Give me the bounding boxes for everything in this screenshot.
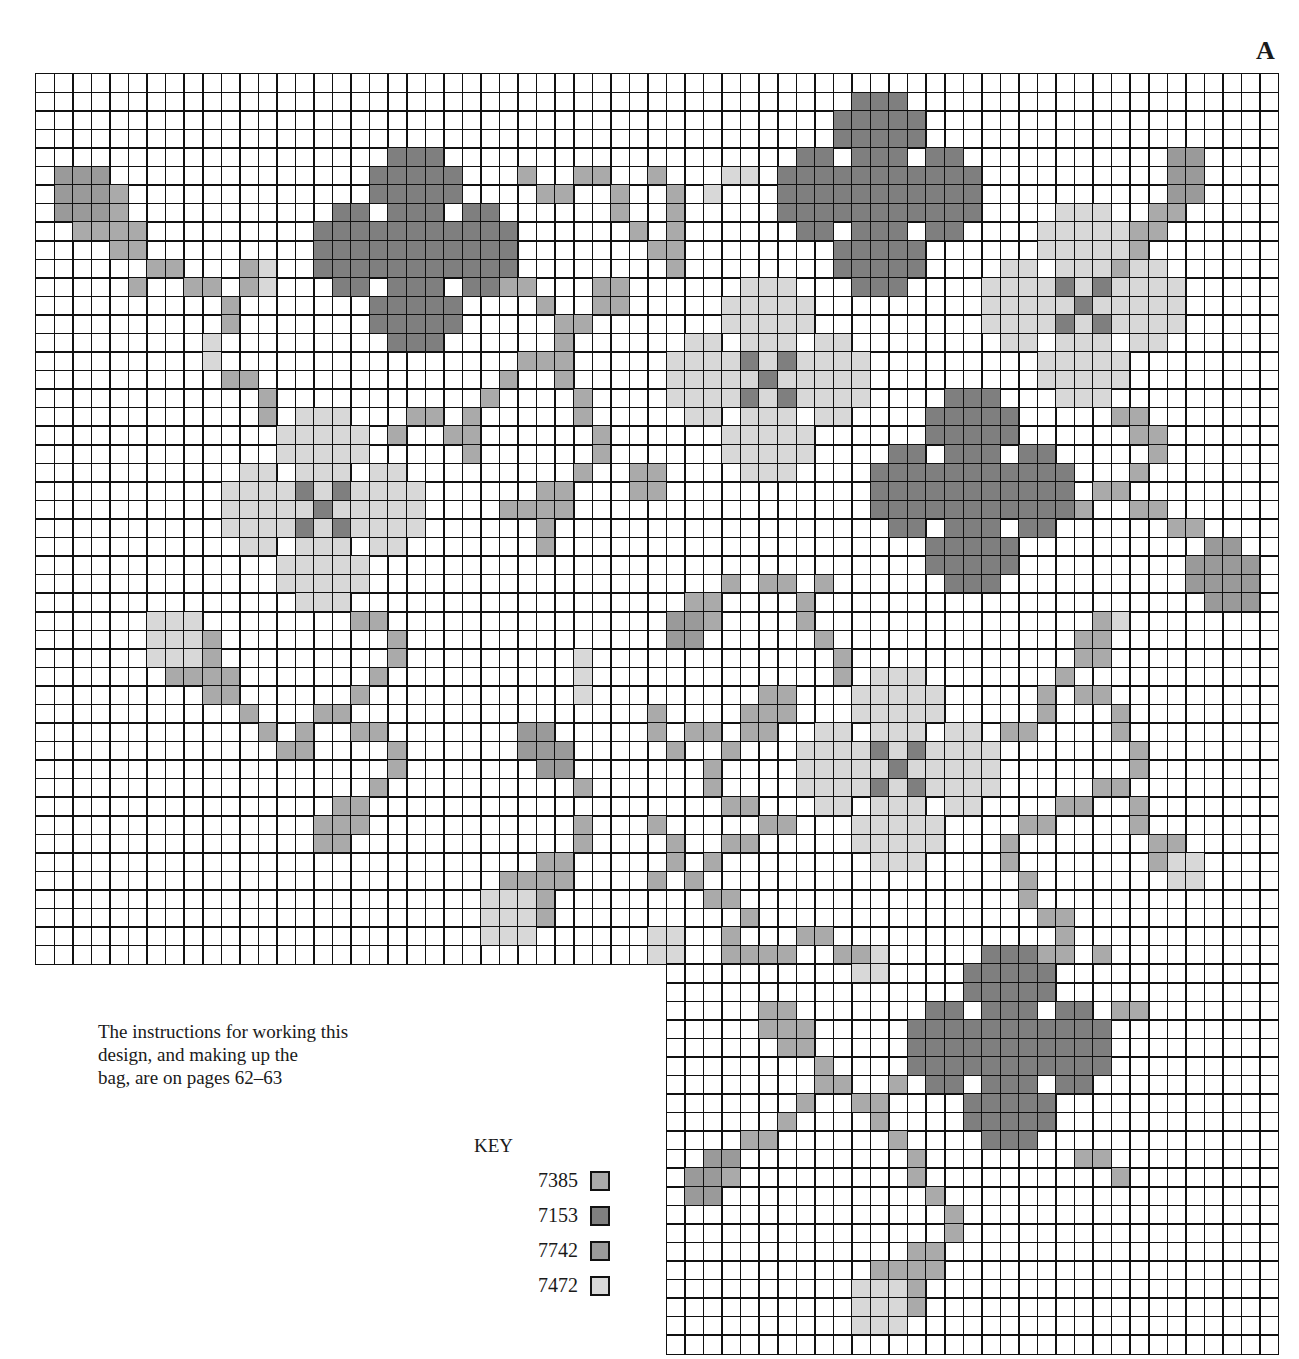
grid-cell (313, 759, 333, 779)
grid-cell (387, 351, 407, 371)
grid-cell (313, 370, 333, 390)
grid-cell (907, 92, 927, 112)
grid-cell (183, 481, 203, 501)
grid-cell (814, 92, 834, 112)
grid-cell (165, 815, 185, 835)
grid-cell (1185, 463, 1205, 483)
grid-cell (1037, 852, 1057, 872)
grid-cell (647, 147, 667, 167)
grid-cell (1241, 574, 1261, 594)
grid-cell (907, 518, 927, 538)
grid-cell (684, 147, 704, 167)
grid-cell (721, 834, 741, 854)
grid-cell (295, 555, 315, 575)
grid-cell (721, 1223, 741, 1243)
grid-cell (239, 592, 259, 612)
grid-cell (1055, 537, 1075, 557)
grid-cell (1000, 203, 1020, 223)
grid-cell (1055, 1112, 1075, 1132)
grid-cell (1018, 481, 1038, 501)
grid-cell (165, 388, 185, 408)
grid-cell (963, 1056, 983, 1076)
grid-cell (1204, 259, 1224, 279)
grid-cell (480, 741, 500, 761)
grid-cell (554, 333, 574, 353)
grid-cell (1241, 1149, 1261, 1169)
grid-cell (851, 259, 871, 279)
grid-cell (944, 129, 964, 149)
grid-cell (202, 611, 222, 631)
grid-cell (72, 648, 92, 668)
grid-cell (536, 630, 556, 650)
grid-cell (443, 778, 463, 798)
grid-cell (647, 871, 667, 891)
grid-cell (462, 333, 482, 353)
grid-cell (183, 889, 203, 909)
grid-cell (165, 277, 185, 297)
grid-cell (1167, 1075, 1187, 1095)
grid-cell (814, 982, 834, 1002)
grid-cell (1018, 1260, 1038, 1280)
grid-cell (221, 796, 241, 816)
grid-cell (1074, 704, 1094, 724)
grid-cell (1037, 425, 1057, 445)
grid-cell (295, 425, 315, 445)
grid-cell (777, 129, 797, 149)
grid-cell (295, 314, 315, 334)
grid-cell (1241, 815, 1261, 835)
grid-cell (870, 333, 890, 353)
grid-cell (499, 388, 519, 408)
grid-cell (888, 221, 908, 241)
grid-cell (72, 92, 92, 112)
grid-cell (1259, 1242, 1279, 1262)
grid-cell (1074, 407, 1094, 427)
grid-cell (944, 1038, 964, 1058)
grid-cell (981, 444, 1001, 464)
grid-cell (258, 555, 278, 575)
grid-cell (944, 370, 964, 390)
grid-cell (239, 333, 259, 353)
grid-cell (1018, 240, 1038, 260)
grid-cell (610, 852, 630, 872)
grid-cell (814, 277, 834, 297)
grid-cell (128, 648, 148, 668)
grid-cell (165, 555, 185, 575)
grid-cell (870, 982, 890, 1002)
grid-cell (907, 704, 927, 724)
grid-cell (499, 444, 519, 464)
grid-cell (796, 73, 816, 93)
grid-cell (1204, 1316, 1224, 1336)
grid-cell (35, 203, 55, 223)
grid-cell (425, 704, 445, 724)
grid-cell (592, 667, 612, 687)
grid-cell (406, 481, 426, 501)
grid-cell (128, 425, 148, 445)
grid-cell (350, 388, 370, 408)
grid-cell (629, 722, 649, 742)
grid-cell (981, 1297, 1001, 1317)
grid-cell (851, 796, 871, 816)
grid-cell (1111, 296, 1131, 316)
grid-cell (295, 889, 315, 909)
grid-cell (666, 611, 686, 631)
grid-cell (1185, 1334, 1205, 1354)
grid-cell (554, 277, 574, 297)
grid-cell (295, 184, 315, 204)
grid-cell (554, 259, 574, 279)
grid-cell (629, 704, 649, 724)
grid-cell (1204, 815, 1224, 835)
grid-cell (1167, 110, 1187, 130)
grid-cell (1000, 259, 1020, 279)
grid-cell (1241, 722, 1261, 742)
grid-cell (647, 667, 667, 687)
grid-cell (1241, 1316, 1261, 1336)
grid-cell (777, 1167, 797, 1187)
grid-cell (54, 834, 74, 854)
grid-cell (517, 203, 537, 223)
grid-cell (814, 834, 834, 854)
grid-cell (1241, 982, 1261, 1002)
grid-cell (1241, 871, 1261, 891)
grid-cell (758, 351, 778, 371)
grid-cell (350, 685, 370, 705)
grid-cell (684, 852, 704, 872)
